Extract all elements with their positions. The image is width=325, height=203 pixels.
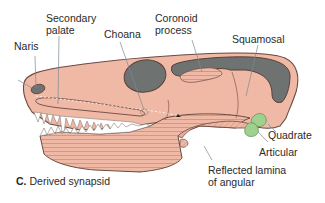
caption-text: Derived synapsid bbox=[30, 175, 111, 187]
label-squamosal: Squamosal bbox=[232, 33, 285, 45]
label-articular: Articular bbox=[259, 146, 298, 158]
synapsid-skull-figure: Naris Secondary palate Choana Coronoid p… bbox=[0, 0, 325, 203]
label-secondary-palate-line1: Secondary bbox=[46, 12, 96, 24]
label-coronoid-line1: Coronoid bbox=[155, 12, 198, 24]
reflected-lamina-shape bbox=[180, 139, 188, 147]
label-secondary-palate-line2: palate bbox=[46, 24, 75, 36]
figure-caption: C.Derived synapsid bbox=[16, 175, 110, 187]
label-reflected-lamina-line1: Reflected lamina bbox=[208, 164, 286, 176]
label-naris: Naris bbox=[14, 40, 39, 52]
caption-letter: C. bbox=[16, 175, 27, 187]
label-coronoid-line2: process bbox=[155, 24, 192, 36]
label-quadrate: Quadrate bbox=[268, 129, 312, 141]
label-choana: Choana bbox=[104, 28, 141, 40]
articular-shape bbox=[245, 123, 259, 137]
label-reflected-lamina-line2: of angular bbox=[208, 176, 255, 188]
